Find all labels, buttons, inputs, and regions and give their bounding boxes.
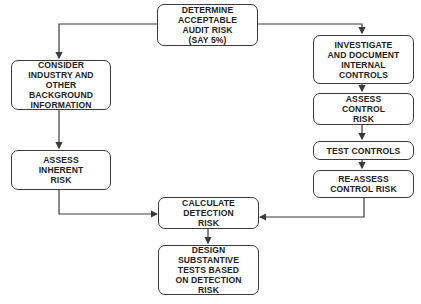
node-assess-inherent-risk: ASSESS INHERENT RISK	[11, 150, 111, 190]
node-assess-control-risk: ASSESS CONTROL RISK	[313, 93, 414, 125]
edge-determine-consider	[59, 24, 157, 58]
node-consider-background: CONSIDER INDUSTRY AND OTHER BACKGROUND I…	[11, 60, 111, 110]
node-design-substantive-tests: DESIGN SUBSTANTIVE TESTS BASED ON DETECT…	[158, 245, 259, 295]
node-calculate-detection-risk: CALCULATE DETECTION RISK	[158, 197, 259, 229]
node-determine-audit-risk: DETERMINE ACCEPTABLE AUDIT RISK (SAY 5%)	[157, 4, 258, 46]
edge-inherent-calculate	[59, 190, 157, 214]
node-test-controls: TEST CONTROLS	[313, 141, 414, 160]
edge-reassess-calculate	[260, 198, 364, 217]
edge-determine-investigate	[258, 24, 362, 33]
node-reassess-control-risk: RE-ASSESS CONTROL RISK	[313, 170, 414, 198]
node-investigate-controls: INVESTIGATE AND DOCUMENT INTERNAL CONTRO…	[313, 35, 414, 84]
